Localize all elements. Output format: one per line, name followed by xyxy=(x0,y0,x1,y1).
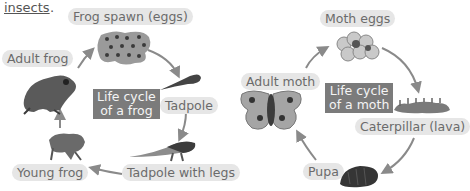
young-frog-image xyxy=(47,130,89,162)
arrow-adult-to-spawn xyxy=(78,50,92,68)
moth-eggs-image xyxy=(334,30,382,63)
moth-cycle-title: Life cycle of a moth xyxy=(325,83,393,113)
stage-adult-frog-label: Adult frog xyxy=(2,50,73,67)
stage-moth-eggs-label: Moth eggs xyxy=(320,10,395,27)
adult-moth-image xyxy=(238,88,304,132)
stage-tadpole-label: Tadpole xyxy=(160,97,218,114)
adult-frog-image xyxy=(20,70,82,115)
arrow-legs-to-young xyxy=(92,168,122,174)
arrow-caterpillar-to-pupa xyxy=(384,138,414,172)
moth-title-line2: of a moth xyxy=(329,98,389,112)
stage-caterpillar-label: Caterpillar (lava) xyxy=(355,118,470,135)
frog-spawn-image xyxy=(95,29,153,67)
caterpillar-image xyxy=(392,98,452,116)
moth-title-line1: Life cycle xyxy=(329,84,389,98)
pupa-image xyxy=(338,164,380,188)
arrow-pupa-to-adult xyxy=(298,133,316,160)
tadpole-image xyxy=(158,70,203,92)
stage-young-frog-label: Young frog xyxy=(12,164,88,181)
arrow-adult-to-eggs xyxy=(306,48,326,68)
frog-title-line2: of a frog xyxy=(97,104,156,118)
stage-tadpole-legs-label: Tadpole with legs xyxy=(122,164,240,181)
frog-cycle-title: Life cycle of a frog xyxy=(93,89,160,119)
tadpole-with-legs-image xyxy=(127,135,199,163)
stage-frog-spawn-label: Frog spawn (eggs) xyxy=(68,8,193,25)
frog-title-line1: Life cycle xyxy=(97,90,156,104)
